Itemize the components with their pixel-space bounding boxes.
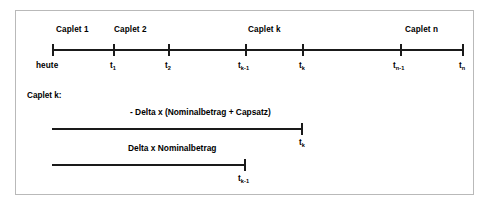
timeline-tick-tk-1 xyxy=(245,44,247,56)
timeline-label-tn: tn xyxy=(459,62,465,70)
caplet-span-label-1: Caplet 1 xyxy=(56,26,89,34)
timeline-label-tk: tk xyxy=(299,62,305,70)
timeline-label-tk-1: tk-1 xyxy=(238,62,249,70)
caplet-span-label-k: Caplet k xyxy=(248,26,281,34)
flow-end-label-negative-payment: tk xyxy=(299,139,305,147)
timeline-label-heute-text: heute xyxy=(36,61,58,70)
timeline-label-tk-sub: k xyxy=(302,65,305,71)
timeline-label-t1-sub: 1 xyxy=(113,65,116,71)
timeline-label-tn-sub: n xyxy=(462,65,466,71)
flow-end-label-positive-payment: tk-1 xyxy=(238,175,249,183)
flow-bar-negative-payment xyxy=(52,128,302,130)
flow-label-negative-payment: - Delta x (Nominalbetrag + Capsatz) xyxy=(130,108,271,116)
timeline-label-t2: t2 xyxy=(165,62,171,70)
timeline-label-tk-1-sub: k-1 xyxy=(241,65,249,71)
timeline-tick-t1 xyxy=(113,44,115,56)
caplet-timeline-figure: Caplet 1 Caplet 2 Caplet k Caplet n heut… xyxy=(0,0,488,211)
flow-bar-positive-payment xyxy=(52,164,245,166)
timeline-tick-tn-1 xyxy=(400,44,402,56)
flow-end-tick-negative-payment xyxy=(301,123,303,135)
timeline-label-tn-1: tn-1 xyxy=(393,62,405,70)
timeline-tick-t2 xyxy=(168,44,170,56)
timeline-label-t2-sub: 2 xyxy=(168,65,171,71)
timeline-label-heute: heute xyxy=(36,62,58,70)
timeline-tick-tn xyxy=(462,44,464,56)
flow-end-label-positive-payment-sub: k-1 xyxy=(241,178,249,184)
caplet-detail-title: Caplet k: xyxy=(27,92,62,100)
timeline-label-t1: t1 xyxy=(110,62,116,70)
flow-label-positive-payment: Delta x Nominalbetrag xyxy=(128,144,216,152)
caplet-span-label-n: Caplet n xyxy=(405,26,438,34)
timeline-tick-heute xyxy=(52,44,54,56)
timeline-tick-tk xyxy=(302,44,304,56)
timeline-label-tn-1-sub: n-1 xyxy=(396,65,405,71)
caplet-span-label-2: Caplet 2 xyxy=(114,26,147,34)
flow-end-label-negative-payment-sub: k xyxy=(302,142,305,148)
flow-end-tick-positive-payment xyxy=(244,159,246,171)
